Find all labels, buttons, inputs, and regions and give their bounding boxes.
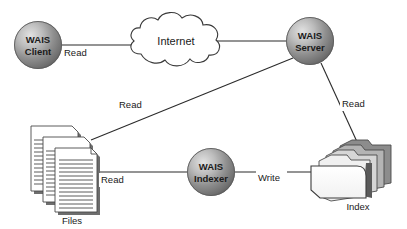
wais-server-node: WAIS Server (286, 17, 334, 65)
document-page-front (55, 148, 100, 215)
edge-label-text-client-read: Read (64, 47, 87, 58)
edge-label-server-index-read: Read (340, 97, 370, 111)
edge-label-server-files-read: Read (117, 98, 147, 112)
edge-label-text-indexer-index-write: Write (258, 172, 280, 183)
files-caption: Files (62, 215, 82, 226)
wais-client-node: WAIS Client (14, 21, 62, 69)
wais-indexer-label-line2: Indexer (194, 173, 228, 184)
index-folder-node: Index (311, 140, 391, 212)
wais-server-label-line1: WAIS (298, 30, 322, 41)
index-caption: Index (346, 201, 369, 212)
edge-label-text-server-index-read: Read (342, 98, 365, 109)
wais-client-label-line1: WAIS (26, 34, 50, 45)
diagram-canvas: Internet (0, 0, 407, 229)
files-stack-node: Files (31, 126, 100, 226)
edge-label-files-indexer-read: Read (99, 173, 129, 187)
internet-cloud-node: Internet (131, 13, 220, 66)
wais-server-label-line2: Server (295, 42, 325, 53)
internet-cloud-label: Internet (157, 35, 194, 47)
wais-indexer-label-line1: WAIS (199, 161, 223, 172)
wais-architecture-diagram: Internet (0, 0, 407, 229)
wais-client-label-line2: Client (25, 46, 52, 57)
edge-label-text-files-indexer-read: Read (101, 174, 124, 185)
folder-front-pocket (311, 166, 366, 198)
edge-label-client-read: Read (62, 46, 90, 60)
edge-label-text-server-files-read: Read (119, 99, 142, 110)
edge-label-indexer-index-write: Write (256, 171, 287, 185)
wais-indexer-node: WAIS Indexer (187, 148, 235, 196)
